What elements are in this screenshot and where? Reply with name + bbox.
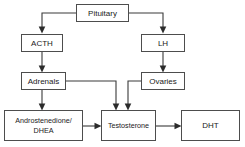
edge-pituitary-to-acth xyxy=(39,13,77,34)
node-adrenals[interactable]: Adrenals xyxy=(22,73,66,90)
node-dht-label: DHT xyxy=(202,121,219,130)
edge-pituitary-to-lh xyxy=(129,13,167,34)
edge-adrenals-to-androstenedione xyxy=(39,90,46,111)
node-pituitary-label: Pituitary xyxy=(88,9,117,18)
flowchart-diagram: Pituitary ACTH LH Adrenals Ovaries Andro… xyxy=(0,0,245,147)
edge-testosterone-to-dht xyxy=(156,123,182,130)
node-ovaries-label: Ovaries xyxy=(149,77,177,86)
node-pituitary[interactable]: Pituitary xyxy=(77,5,129,22)
node-lh-label: LH xyxy=(158,39,168,48)
flowchart-canvas: Pituitary ACTH LH Adrenals Ovaries Andro… xyxy=(0,0,245,147)
node-adrenals-label: Adrenals xyxy=(28,77,60,86)
edge-ovaries-to-testosterone xyxy=(125,81,142,111)
node-testosterone-label: Testosterone xyxy=(108,121,149,130)
edge-acth-to-adrenals xyxy=(39,52,46,73)
node-lh[interactable]: LH xyxy=(142,35,185,52)
node-androstenedione-label-line2: DHEA xyxy=(34,126,54,135)
node-testosterone[interactable]: Testosterone xyxy=(102,111,156,141)
node-ovaries[interactable]: Ovaries xyxy=(142,73,185,90)
node-dht[interactable]: DHT xyxy=(182,111,240,141)
edge-androstenedione-to-testosterone xyxy=(83,123,102,130)
node-androstenedione[interactable]: Androstenedione/ DHEA xyxy=(5,111,83,141)
node-androstenedione-label-line1: Androstenedione/ xyxy=(15,116,71,125)
edge-adrenals-to-testosterone xyxy=(66,81,120,111)
node-acth[interactable]: ACTH xyxy=(22,35,63,52)
edge-lh-to-ovaries xyxy=(160,52,167,73)
node-acth-label: ACTH xyxy=(31,39,53,48)
